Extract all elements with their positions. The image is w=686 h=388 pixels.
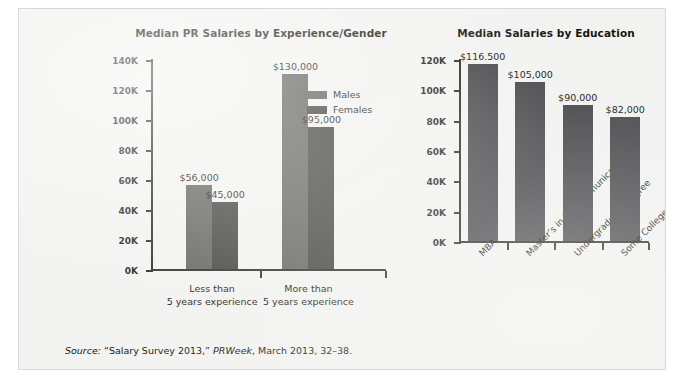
y-axis-tick-label: 80K: [427, 117, 447, 127]
y-axis-tick: 0K: [146, 270, 153, 272]
y-axis-tick: 0K: [454, 242, 461, 244]
bar-education: $116.500: [468, 64, 498, 241]
bar-value-label: $130,000: [273, 61, 318, 72]
source-rest: , March 2013, 32–38.: [252, 345, 352, 356]
y-axis-tick-label: 20K: [427, 208, 447, 218]
x-axis-tick: [385, 271, 387, 278]
chart-education-title: Median Salaries by Education: [417, 27, 666, 39]
x-axis-group-label-line: More than: [263, 282, 354, 295]
y-axis-tick-label: 120K: [420, 56, 446, 66]
y-axis-tick: 80K: [146, 150, 153, 152]
y-axis-tick: 60K: [146, 180, 153, 182]
x-axis-line: [151, 269, 386, 271]
y-axis-tick: 20K: [146, 240, 153, 242]
source-note: Source: “Salary Survey 2013,” PRWeek, Ma…: [65, 345, 352, 356]
y-axis-tick-label: 0K: [433, 238, 446, 248]
chart-education: Median Salaries by Education 0K20K40K60K…: [417, 27, 666, 337]
bar-value-label: $56,000: [179, 172, 218, 183]
legend-swatch-females: [307, 106, 327, 114]
y-axis-tick: 60K: [454, 151, 461, 153]
y-axis-tick-label: 0K: [125, 266, 138, 276]
bar-value-label: $90,000: [558, 92, 597, 103]
source-label: Source:: [65, 345, 101, 356]
x-axis-group-label-line: Less than: [167, 282, 258, 295]
legend-item-females: Females: [307, 104, 372, 115]
bar-education: $105,000: [515, 82, 545, 241]
bar-value-label: $105,000: [508, 69, 553, 80]
legend-label-males: Males: [333, 89, 360, 100]
source-publication: PRWeek: [213, 345, 252, 356]
y-axis-tick-label: 40K: [119, 206, 139, 216]
source-title: “Salary Survey 2013,”: [101, 345, 213, 356]
x-axis-group-label: More than5 years experience: [263, 282, 354, 308]
x-axis-tick: [507, 243, 509, 250]
x-axis-tick: [554, 243, 556, 250]
bar-education: $82,000: [610, 117, 640, 241]
y-axis-tick: 120K: [146, 90, 153, 92]
bar-females: $95,000: [308, 127, 334, 270]
legend-swatch-males: [307, 91, 327, 99]
chart-experience-title: Median PR Salaries by Experience/Gender: [111, 27, 411, 39]
x-axis-tick: [260, 271, 262, 278]
y-axis-tick-label: 140K: [112, 56, 138, 66]
y-axis-tick: 40K: [146, 210, 153, 212]
bar-value-label: $82,000: [606, 104, 645, 115]
y-axis-tick: 80K: [454, 121, 461, 123]
y-axis-tick-label: 120K: [112, 86, 138, 96]
y-axis-tick-label: 40K: [427, 177, 447, 187]
x-axis-tick: [648, 243, 650, 250]
y-axis-tick-label: 60K: [427, 147, 447, 157]
chart-experience-gender: Median PR Salaries by Experience/Gender …: [111, 27, 411, 327]
bar-value-label: $116.500: [460, 51, 505, 62]
bar-education: $90,000: [563, 105, 593, 242]
y-axis-tick-label: 20K: [119, 236, 139, 246]
y-axis-tick: 20K: [454, 212, 461, 214]
x-axis-group-label-line: 5 years experience: [263, 295, 354, 308]
legend-label-females: Females: [333, 104, 372, 115]
bar-value-label: $45,000: [205, 189, 244, 200]
chart-experience-legend: Males Females: [307, 89, 372, 119]
y-axis-tick: 100K: [454, 90, 461, 92]
y-axis-tick: 140K: [146, 60, 153, 62]
chart-education-plot-area: 0K20K40K60K80K100K120K$116.500MBA$105,00…: [459, 59, 649, 243]
bar-females: $45,000: [212, 202, 238, 270]
figure-page: Median PR Salaries by Experience/Gender …: [18, 8, 666, 370]
bar-males: $130,000: [282, 74, 308, 269]
x-axis-group-label-line: 5 years experience: [167, 295, 258, 308]
x-axis-group-label: Less than5 years experience: [167, 282, 258, 308]
y-axis-tick: 100K: [146, 120, 153, 122]
x-axis-tick: [602, 243, 604, 250]
legend-item-males: Males: [307, 89, 372, 100]
y-axis-tick: 40K: [454, 181, 461, 183]
y-axis-tick-label: 100K: [112, 116, 138, 126]
y-axis-tick-label: 80K: [119, 146, 139, 156]
y-axis-tick-label: 100K: [420, 86, 446, 96]
y-axis-tick-label: 60K: [119, 176, 139, 186]
